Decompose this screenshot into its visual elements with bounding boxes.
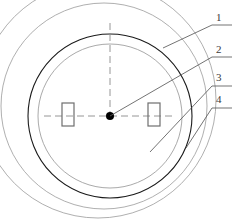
callout-label-2: 2 — [216, 44, 222, 55]
right-key-rectangle — [148, 103, 160, 126]
leader-line-2 — [110, 57, 232, 116]
callout-label-1: 1 — [216, 12, 222, 23]
callout-label-4: 4 — [216, 94, 222, 105]
left-key-rectangle — [62, 103, 74, 126]
callout-label-3: 3 — [216, 72, 222, 83]
outer-circle — [0, 0, 216, 218]
technical-diagram: 1 2 3 4 — [0, 0, 239, 220]
leader-line-4 — [186, 108, 232, 148]
diagram-canvas — [0, 0, 239, 220]
